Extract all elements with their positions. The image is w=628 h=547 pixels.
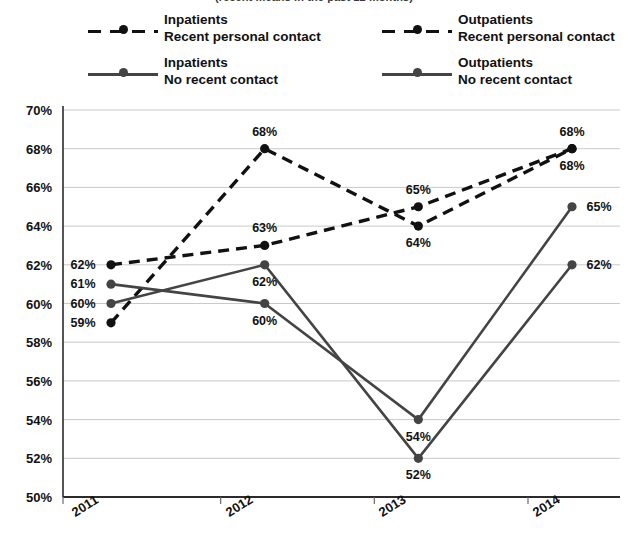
data-point-label: 62% (252, 275, 277, 289)
data-point-label: 60% (252, 314, 277, 328)
legend-marker-dashed-icon (382, 21, 452, 41)
legend-item-inpatients-recent[interactable]: Inpatients Recent personal contact (88, 12, 321, 45)
legend-label-group: Outpatients (458, 55, 572, 72)
data-point-label: 61% (70, 277, 95, 291)
chart-subtitle: (recent means in the past 12 months) (0, 0, 628, 3)
data-point-labels: 62%63%65%68%59%68%64%68%61%60%54%65%60%6… (0, 96, 628, 547)
data-point-label: 54% (406, 430, 431, 444)
data-point-label: 59% (70, 316, 95, 330)
legend-label-group: Inpatients (164, 12, 321, 29)
data-point-label: 62% (70, 258, 95, 272)
legend-item-inpatients-norecent[interactable]: Inpatients No recent contact (88, 55, 278, 88)
data-point-label: 68% (252, 125, 277, 139)
legend-label-contact: No recent contact (164, 72, 278, 89)
data-point-label: 63% (252, 221, 277, 235)
data-point-label: 65% (406, 183, 431, 197)
chart-legend: Inpatients Recent personal contact Outpa… (0, 8, 628, 90)
legend-marker-dashed-icon (88, 21, 158, 41)
data-point-label: 52% (406, 468, 431, 482)
data-point-label: 68% (559, 159, 584, 173)
legend-marker-solid-icon (382, 64, 452, 84)
legend-label-group: Outpatients (458, 12, 615, 29)
data-point-label: 62% (586, 258, 611, 272)
legend-label-contact: No recent contact (458, 72, 572, 89)
plot-area: 50%52%54%56%58%60%62%64%66%68%70% 201120… (0, 96, 628, 547)
legend-label-contact: Recent personal contact (458, 29, 615, 46)
legend-item-outpatients-recent[interactable]: Outpatients Recent personal contact (382, 12, 615, 45)
line-chart: (recent means in the past 12 months) Inp… (0, 0, 628, 547)
legend-marker-solid-icon (88, 64, 158, 84)
legend-label-group: Inpatients (164, 55, 278, 72)
data-point-label: 68% (559, 125, 584, 139)
data-point-label: 64% (406, 236, 431, 250)
legend-label-contact: Recent personal contact (164, 29, 321, 46)
data-point-label: 65% (586, 200, 611, 214)
legend-item-outpatients-norecent[interactable]: Outpatients No recent contact (382, 55, 572, 88)
data-point-label: 60% (70, 297, 95, 311)
